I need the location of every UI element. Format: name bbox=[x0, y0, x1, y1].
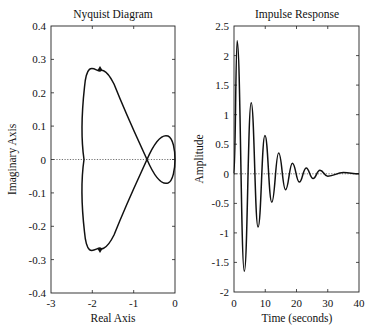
impulse-ytick: 2 bbox=[224, 50, 230, 62]
impulse-ytick: -0.5 bbox=[212, 197, 230, 209]
impulse-xtick: 0 bbox=[231, 297, 237, 309]
impulse-ytick: -2 bbox=[220, 286, 229, 298]
figure: Nyquist Diagram -3 -2 -1 0 0.4 0.3 0.2 0… bbox=[0, 0, 375, 327]
impulse-ytick: -1 bbox=[220, 227, 229, 239]
impulse-ylabel: Amplitude bbox=[193, 134, 206, 183]
impulse-xtick: 10 bbox=[260, 297, 272, 309]
nyquist-ytick: -0.4 bbox=[29, 287, 47, 299]
nyquist-xtick: -1 bbox=[129, 297, 138, 309]
impulse-xtick: 20 bbox=[291, 297, 303, 309]
impulse-ytick: 0.5 bbox=[215, 138, 229, 150]
impulse-title: Impulse Response bbox=[255, 8, 339, 21]
impulse-x-ticks bbox=[265, 26, 328, 292]
nyquist-ytick: 0.1 bbox=[32, 120, 46, 132]
impulse-plot: Impulse Response 0 10 20 30 40 2.5 2 1.5… bbox=[193, 8, 365, 325]
impulse-y-ticks bbox=[234, 56, 359, 263]
nyquist-ytick: 0.4 bbox=[32, 20, 46, 32]
nyquist-curve bbox=[82, 68, 175, 250]
nyquist-ytick: 0.3 bbox=[32, 53, 46, 65]
impulse-ytick: -1.5 bbox=[212, 256, 230, 268]
nyquist-ytick: -0.1 bbox=[29, 187, 46, 199]
nyquist-ytick: -0.3 bbox=[29, 254, 47, 266]
impulse-ytick: 1.5 bbox=[215, 79, 229, 91]
nyquist-ylabel: Imaginary Axis bbox=[6, 123, 19, 195]
nyquist-ytick: 0.2 bbox=[32, 87, 46, 99]
impulse-xlabel: Time (seconds) bbox=[262, 312, 333, 325]
nyquist-arrow-up-icon bbox=[97, 66, 103, 71]
nyquist-xtick: -2 bbox=[88, 297, 97, 309]
impulse-axes-box bbox=[234, 26, 359, 292]
impulse-ytick: 1 bbox=[224, 109, 230, 121]
nyquist-ytick: -0.2 bbox=[29, 220, 46, 232]
impulse-ytick: 0 bbox=[224, 168, 230, 180]
impulse-ytick: 2.5 bbox=[215, 20, 229, 32]
nyquist-xlabel: Real Axis bbox=[90, 312, 136, 324]
impulse-xtick: 40 bbox=[354, 297, 366, 309]
nyquist-plot: Nyquist Diagram -3 -2 -1 0 0.4 0.3 0.2 0… bbox=[6, 8, 178, 324]
nyquist-xtick: 0 bbox=[172, 297, 178, 309]
nyquist-title: Nyquist Diagram bbox=[73, 8, 153, 21]
nyquist-ytick: 0 bbox=[41, 154, 47, 166]
impulse-xtick: 30 bbox=[322, 297, 334, 309]
impulse-curve bbox=[234, 41, 359, 272]
nyquist-arrow-down-icon bbox=[97, 248, 103, 253]
nyquist-xtick: -3 bbox=[46, 297, 56, 309]
